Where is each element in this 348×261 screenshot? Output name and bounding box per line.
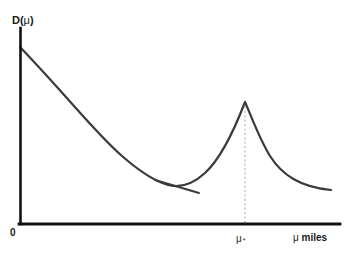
y-axis-label-prefix: D( (12, 14, 24, 26)
y-axis-label-suffix: ) (30, 14, 34, 26)
mu-star-tick-label: μ* (236, 234, 245, 244)
x-axis-label-mu: μ (293, 232, 299, 243)
y-axis-label: D(μ) (12, 15, 34, 26)
x-axis-label-unit: miles (302, 232, 328, 243)
x-axis-label: μ miles (293, 233, 327, 243)
chart-figure: D(μ) 0 μ* μ miles (0, 0, 348, 261)
demand-curve (20, 47, 331, 190)
origin-label: 0 (10, 228, 16, 238)
mu-star-symbol: μ (236, 233, 242, 244)
chart-canvas (0, 0, 348, 261)
mu-star-subscript: * (243, 237, 246, 244)
